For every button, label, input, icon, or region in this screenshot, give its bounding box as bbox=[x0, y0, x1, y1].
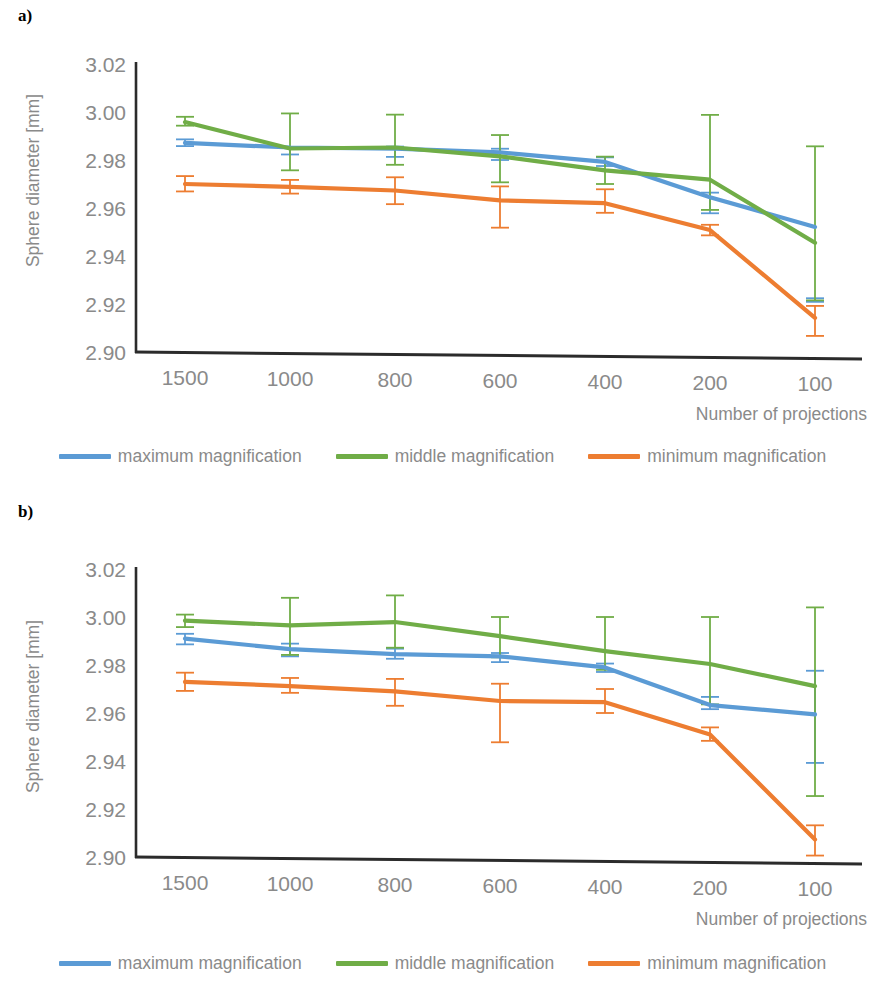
x-tick-label: 100 bbox=[797, 372, 832, 396]
legend-line-icon bbox=[336, 961, 388, 966]
legend-label: middle magnification bbox=[395, 446, 555, 467]
legend-label: minimum magnification bbox=[647, 446, 826, 467]
figure-panel-b: b) Sphere diameter [mm] 3.02 3.00 2.98 2… bbox=[0, 498, 885, 996]
x-tick-label: 1000 bbox=[267, 367, 314, 391]
x-tick-label: 600 bbox=[482, 874, 517, 898]
x-tick-label: 1000 bbox=[267, 872, 314, 896]
x-axis-title: Number of projections bbox=[696, 909, 867, 930]
figure-panel-a: a) Sphere diameter [mm] 3.02 3.00 2.98 2… bbox=[0, 0, 885, 498]
panel-marker-b: b) bbox=[18, 502, 33, 522]
plot-area-b: Sphere diameter [mm] 3.02 3.00 2.98 2.96… bbox=[0, 526, 885, 966]
axis-lines-b bbox=[135, 567, 862, 864]
legend-line-icon bbox=[336, 454, 388, 459]
legend-item-maximum-magnification[interactable]: maximum magnification bbox=[59, 953, 302, 974]
plot-area-a: Sphere diameter [mm] 3.02 3.00 2.98 2.96… bbox=[0, 0, 885, 440]
x-tick-label: 200 bbox=[692, 876, 727, 900]
legend-label: maximum magnification bbox=[118, 446, 302, 467]
x-tick-label: 400 bbox=[587, 875, 622, 899]
legend-line-icon bbox=[59, 961, 111, 966]
x-tick-label: 1500 bbox=[162, 871, 209, 895]
legend-label: minimum magnification bbox=[647, 953, 826, 974]
x-tick-label: 800 bbox=[377, 368, 412, 392]
legend-label: middle magnification bbox=[395, 953, 555, 974]
legend-line-icon bbox=[59, 454, 111, 459]
legend-a: maximum magnification middle magnificati… bbox=[0, 446, 885, 467]
x-tick-label: 400 bbox=[587, 370, 622, 394]
x-tick-label: 200 bbox=[692, 371, 727, 395]
legend-item-maximum-magnification[interactable]: maximum magnification bbox=[59, 446, 302, 467]
legend-b: maximum magnification middle magnificati… bbox=[0, 953, 885, 974]
legend-line-icon bbox=[588, 961, 640, 966]
legend-label: maximum magnification bbox=[118, 953, 302, 974]
x-axis-title: Number of projections bbox=[696, 404, 867, 425]
chart-canvas-b bbox=[0, 526, 885, 926]
legend-item-middle-magnification[interactable]: middle magnification bbox=[336, 953, 555, 974]
legend-item-minimum-magnification[interactable]: minimum magnification bbox=[588, 953, 826, 974]
legend-line-icon bbox=[588, 454, 640, 459]
x-tick-label: 800 bbox=[377, 873, 412, 897]
data-series-group-b bbox=[176, 595, 824, 855]
chart-canvas-a bbox=[0, 0, 885, 400]
data-series-group-a bbox=[176, 113, 824, 335]
legend-item-middle-magnification[interactable]: middle magnification bbox=[336, 446, 555, 467]
x-tick-label: 1500 bbox=[162, 366, 209, 390]
x-tick-label: 600 bbox=[482, 369, 517, 393]
legend-item-minimum-magnification[interactable]: minimum magnification bbox=[588, 446, 826, 467]
x-tick-label: 100 bbox=[797, 877, 832, 901]
